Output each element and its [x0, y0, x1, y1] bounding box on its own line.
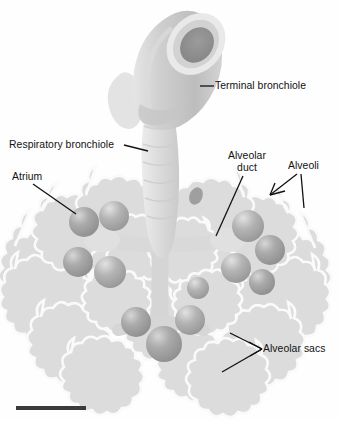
- alveolar-sac: [121, 307, 151, 337]
- alveolar-sac: [99, 201, 129, 231]
- label-terminal-bronchiole: Terminal bronchiole: [215, 80, 306, 92]
- alveolar-sac: [187, 277, 209, 299]
- anatomy-figure: Terminal bronchiole Respiratory bronchio…: [0, 0, 338, 421]
- leader-alveoli-right: [301, 174, 304, 208]
- label-atrium: Atrium: [12, 171, 42, 183]
- label-alveolar-duct: Alveolar duct: [224, 150, 270, 173]
- label-alveolar-sacs: Alveolar sacs: [263, 343, 325, 355]
- lung-respiratory-unit-illustration: [0, 0, 338, 421]
- alveolar-sac: [175, 305, 205, 335]
- label-alveolar-duct-line1: Alveolar: [228, 150, 266, 161]
- label-respiratory-bronchiole: Respiratory bronchiole: [9, 139, 114, 151]
- label-alveoli: Alveoli: [288, 160, 319, 172]
- alveolar-sac: [94, 256, 126, 288]
- alveolar-sac: [249, 269, 275, 295]
- alveolar-sac: [63, 247, 93, 277]
- alveolar-sac: [146, 326, 182, 362]
- label-alveolar-duct-line2: duct: [237, 162, 257, 173]
- alveolar-sac: [221, 253, 251, 283]
- terminal-bronchiole: [133, 1, 238, 130]
- alveolar-sac: [255, 235, 285, 265]
- scale-bar: [16, 406, 86, 410]
- alveolar-sac: [232, 210, 264, 242]
